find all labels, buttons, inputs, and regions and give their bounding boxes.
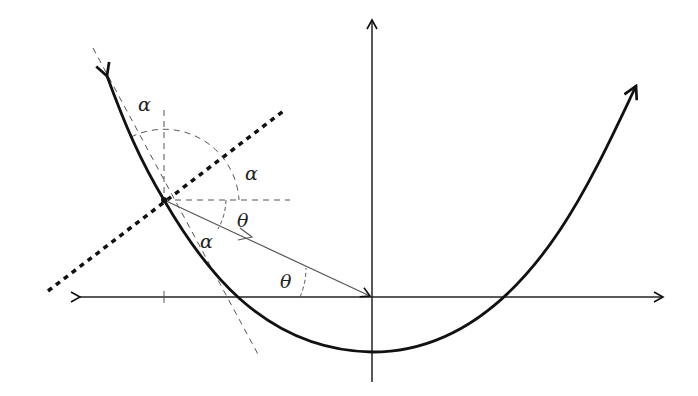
alpha-label-lower: α bbox=[200, 230, 213, 252]
theta-angle-arc-origin bbox=[300, 268, 306, 297]
theta-label-origin: θ bbox=[280, 270, 292, 292]
alpha-label-right: α bbox=[245, 162, 258, 184]
parabola-reflection-diagram: α α α θ θ bbox=[0, 0, 698, 396]
alpha-label-top: α bbox=[138, 93, 151, 115]
point-P bbox=[161, 197, 167, 203]
alpha-angle-arc-large bbox=[131, 129, 239, 200]
tangent-line bbox=[93, 48, 260, 358]
theta-angle-arc-P bbox=[218, 200, 226, 229]
theta-label-mid: θ bbox=[237, 209, 249, 231]
